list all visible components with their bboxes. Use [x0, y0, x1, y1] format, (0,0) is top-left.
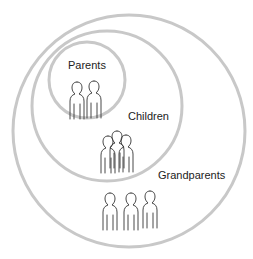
grandparents-figures — [103, 191, 157, 230]
nested-circles-diagram — [0, 0, 253, 259]
children-label: Children — [128, 110, 169, 122]
children-figures — [101, 131, 133, 173]
parents-label: Parents — [68, 59, 106, 71]
children-circle — [32, 31, 182, 181]
grandparents-label: Grandparents — [158, 169, 225, 181]
grandparents-circle — [13, 15, 245, 247]
parents-figures — [70, 81, 101, 119]
